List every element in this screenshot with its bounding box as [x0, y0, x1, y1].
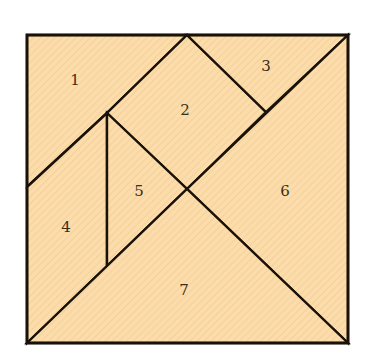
tangram-diagram: 1234567: [0, 0, 365, 362]
piece-label-1: 1: [70, 71, 80, 89]
piece-label-5: 5: [134, 182, 144, 200]
piece-label-2: 2: [180, 101, 190, 119]
piece-label-6: 6: [280, 182, 290, 200]
piece-label-4: 4: [61, 218, 71, 236]
piece-label-3: 3: [261, 57, 271, 75]
piece-label-7: 7: [179, 281, 189, 299]
